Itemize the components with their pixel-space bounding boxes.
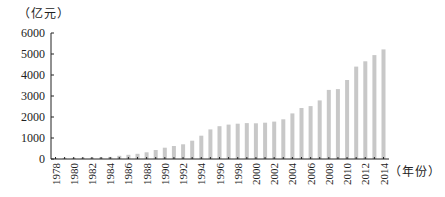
x-tick-label: 1990 (159, 163, 171, 186)
y-axis: 0100020003000400050006000 (21, 26, 54, 166)
x-tick-label: 1984 (104, 163, 116, 186)
bar (199, 136, 203, 159)
bar (372, 55, 376, 159)
x-tick-label: 2000 (250, 163, 262, 186)
bar (327, 90, 331, 159)
x-tick-label: 2004 (286, 163, 298, 186)
bar (300, 108, 304, 159)
x-tick-label: 2006 (305, 163, 317, 186)
x-tick-label: 1988 (141, 163, 153, 186)
x-tick-label: 1978 (50, 163, 62, 186)
bar (345, 80, 349, 159)
x-tick-label: 2010 (341, 163, 353, 186)
y-tick-label: 6000 (21, 26, 45, 40)
y-tick-label: 4000 (21, 68, 45, 82)
bar (208, 129, 212, 159)
bar (336, 89, 340, 159)
bar-series (54, 49, 386, 159)
x-tick-label: 1994 (195, 163, 207, 186)
bar-chart: 0100020003000400050006000 19781980198219… (0, 0, 445, 197)
x-tick-label: 1996 (214, 163, 226, 186)
y-tick-label: 2000 (21, 110, 45, 124)
bar (272, 122, 276, 159)
bar (190, 141, 194, 159)
x-tick-label: 1998 (232, 163, 244, 186)
bar (218, 126, 222, 159)
bar (254, 123, 258, 159)
bar (290, 113, 294, 159)
bar (363, 61, 367, 159)
x-axis: 1978198019821984198619881990199219941996… (50, 157, 390, 185)
bar (309, 106, 313, 159)
bar (354, 67, 358, 159)
bar (318, 100, 322, 159)
bar (263, 123, 267, 159)
y-tick-label: 0 (39, 152, 45, 166)
bar (236, 124, 240, 159)
x-tick-label: 1992 (177, 163, 189, 185)
y-tick-label: 3000 (21, 89, 45, 103)
bar (245, 123, 249, 159)
y-tick-label: 1000 (21, 131, 45, 145)
x-tick-label: 1980 (68, 163, 80, 186)
x-tick-label: 1986 (122, 163, 134, 186)
x-tick-label: 2002 (268, 163, 280, 185)
x-tick-label: 1982 (86, 163, 98, 185)
bar (281, 119, 285, 159)
bar (382, 49, 386, 159)
bar (181, 144, 185, 159)
y-tick-label: 5000 (21, 47, 45, 61)
bar (227, 125, 231, 159)
x-tick-label: 2008 (323, 163, 335, 186)
x-tick-label: 2012 (359, 163, 371, 185)
x-tick-label: 2014 (378, 163, 390, 186)
